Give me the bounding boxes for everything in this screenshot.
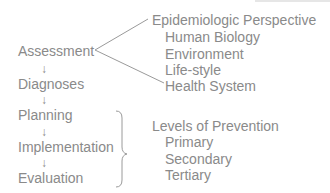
curly-brace <box>116 111 127 187</box>
prevention-item-secondary: Secondary <box>165 151 232 167</box>
step-assessment: Assessment <box>18 43 94 59</box>
down-arrow-icon: ↓ <box>41 63 47 75</box>
epi-item-health-system: Health System <box>165 78 256 94</box>
step-planning: Planning <box>18 107 73 123</box>
fork-line-lower <box>95 50 164 83</box>
step-diagnoses: Diagnoses <box>18 76 84 92</box>
down-arrow-icon: ↓ <box>41 157 47 169</box>
prevention-heading: Levels of Prevention <box>152 118 279 134</box>
fork-line-upper <box>95 19 148 50</box>
down-arrow-icon: ↓ <box>41 94 47 106</box>
step-implementation: Implementation <box>18 139 114 155</box>
prevention-item-tertiary: Tertiary <box>165 167 211 183</box>
epi-item-human-biology: Human Biology <box>165 29 260 45</box>
step-evaluation: Evaluation <box>18 170 83 186</box>
down-arrow-icon: ↓ <box>41 126 47 138</box>
epidemiologic-heading: Epidemiologic Perspective <box>152 12 316 28</box>
prevention-item-primary: Primary <box>165 134 213 150</box>
epi-item-life-style: Life-style <box>165 62 221 78</box>
epi-item-environment: Environment <box>165 46 244 62</box>
